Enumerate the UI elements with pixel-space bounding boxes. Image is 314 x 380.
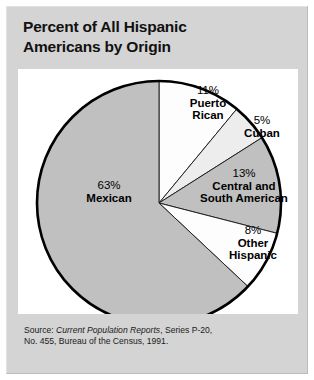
pie-label-central-name-line-2: South American <box>186 192 298 205</box>
source-series: , Series P-20, <box>160 325 212 335</box>
pie-label-other-percent: 8% <box>218 224 288 237</box>
pie-label-mexican-name: Mexican <box>70 192 148 205</box>
pie-label-cuban-name: Cuban <box>234 127 290 140</box>
pie-label-mexican: 63% Mexican <box>70 179 148 204</box>
pie-label-cuban-percent: 5% <box>234 114 290 127</box>
pie-label-other-name-line-1: Other <box>218 237 288 250</box>
figure-panel: Percent of All Hispanic Americans by Ori… <box>6 6 308 374</box>
pie-label-other-hispanic: 8% Other Hispanic <box>218 224 288 262</box>
title-line-1: Percent of All Hispanic <box>23 17 293 37</box>
pie-label-central-and-south-american: 13% Central and South American <box>186 167 298 205</box>
title-line-2: Americans by Origin <box>23 37 293 57</box>
pie-label-central-name-line-1: Central and <box>186 180 298 193</box>
source-prefix: Source: <box>24 325 56 335</box>
chart-plot-area: 63% Mexican 11% Puerto Rican 5% Cuban 13… <box>18 69 298 314</box>
source-line-2: No. 455, Bureau of the Census, 1991. <box>24 336 292 347</box>
source-line-1: Source: Current Population Reports, Seri… <box>24 325 292 336</box>
source-citation: Source: Current Population Reports, Seri… <box>24 325 292 347</box>
source-publication-title: Current Population Reports <box>56 325 160 335</box>
pie-label-puerto-rican-percent: 11% <box>172 84 244 97</box>
pie-label-puerto-rican-name-line-1: Puerto <box>172 97 244 110</box>
page-title: Percent of All Hispanic Americans by Ori… <box>23 17 293 57</box>
pie-label-central-percent: 13% <box>186 167 298 180</box>
pie-label-cuban: 5% Cuban <box>234 114 290 139</box>
pie-label-mexican-percent: 63% <box>70 179 148 192</box>
pie-label-other-name-line-2: Hispanic <box>218 249 288 262</box>
